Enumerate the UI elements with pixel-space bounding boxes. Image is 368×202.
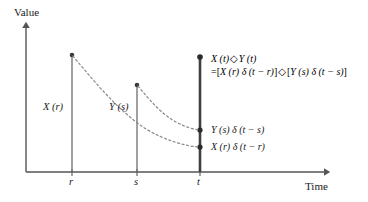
x-tick-label-r: r [69,176,73,188]
formula-term-1: X (r) δ (t − r) [220,66,274,77]
impulse-marker-t-top [197,54,203,60]
diamond-operator-icon-2: ◇ [277,66,287,77]
formula-block: X (t)◇Y (t) =[X (r) δ (t − r)]◇[Y (s) δ … [211,53,367,79]
formula-rhs-y: Y (t) [239,53,257,64]
x-tick-label-s: s [134,176,138,188]
impulse-marker-t-x-delta [197,144,202,149]
x-axis-title: Time [305,180,328,193]
x-impulse-label: X (r) [43,101,63,113]
formula-line-2: =[X (r) δ (t − r)]◇[Y (s) δ (t − s)] [211,66,367,77]
decay-curve-y [138,86,199,130]
x-tick-label-t: t [197,176,200,188]
formula-line-1: X (t)◇Y (t) [211,53,367,64]
diamond-operator-icon: ◇ [229,53,239,64]
formula-term-2: Y (s) δ (t − s) [290,66,343,77]
x-delta-label: X (r) δ (t − r) [211,141,265,153]
formula-lhs-x: X (t) [211,53,229,64]
impulse-response-figure: Value Time r s t X (r) Y (s) Y (s) δ (t … [0,0,368,202]
y-axis-title: Value [14,6,39,19]
decay-curve-x [73,56,199,147]
formula-close-bracket-2: ] [344,66,347,77]
y-delta-label: Y (s) δ (t − s) [211,124,264,136]
y-impulse-label: Y (s) [109,101,129,113]
